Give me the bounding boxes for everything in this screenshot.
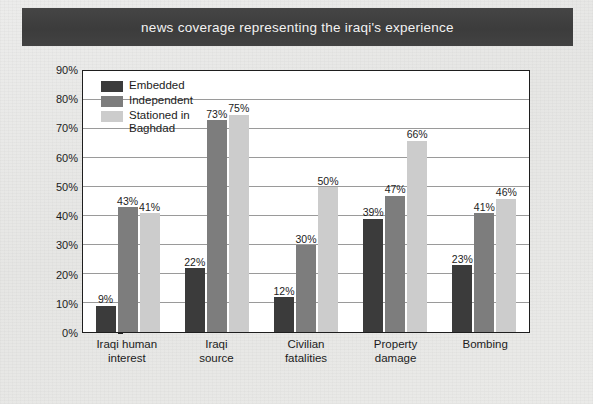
- y-axis-tick-label: 40%: [56, 211, 78, 222]
- legend-swatch: [101, 111, 123, 122]
- y-axis-tick-label: 70%: [56, 123, 78, 134]
- y-axis-tick-label: 80%: [56, 94, 78, 105]
- bar-group: 39%47%66%: [363, 71, 427, 332]
- x-axis-tick-label: Iraqisource: [172, 338, 262, 378]
- bar-value-label: 75%: [228, 103, 249, 114]
- y-axis-tick-mark: [118, 333, 123, 334]
- x-axis-tick-label: Civilianfatalities: [261, 338, 351, 378]
- bar-embedded[interactable]: 22%: [185, 268, 205, 332]
- bar-stationed-in-baghdad[interactable]: 46%: [496, 199, 516, 332]
- x-axis-tick-label: Propertydamage: [351, 338, 441, 378]
- legend-item[interactable]: Stationed in Baghdad: [101, 109, 193, 135]
- bar-independent[interactable]: 30%: [296, 245, 316, 332]
- y-axis: 0%10%20%30%40%50%60%70%80%90%: [40, 62, 78, 341]
- legend: EmbeddedIndependentStationed in Baghdad: [101, 79, 193, 135]
- chart-title-banner: news coverage representing the iraqi's e…: [22, 8, 573, 46]
- bar-value-label: 47%: [385, 184, 406, 195]
- bar-group: 12%30%50%: [274, 71, 338, 332]
- page-title: news coverage representing the iraqi's e…: [141, 20, 454, 35]
- bar-value-label: 9%: [98, 294, 113, 305]
- y-axis-tick-label: 60%: [56, 153, 78, 164]
- bar-stationed-in-baghdad[interactable]: 75%: [229, 115, 249, 333]
- bar-embedded[interactable]: 23%: [452, 265, 472, 332]
- bar-value-label: 30%: [295, 234, 316, 245]
- y-axis-tick-label: 50%: [56, 182, 78, 193]
- bar-stationed-in-baghdad[interactable]: 50%: [318, 187, 338, 332]
- bar-stationed-in-baghdad[interactable]: 66%: [407, 141, 427, 332]
- bar-value-label: 12%: [273, 286, 294, 297]
- legend-label: Embedded: [129, 79, 185, 92]
- bar-independent[interactable]: 43%: [118, 207, 138, 332]
- legend-item[interactable]: Independent: [101, 94, 193, 107]
- bar-embedded[interactable]: 12%: [274, 297, 294, 332]
- bar-independent[interactable]: 41%: [474, 213, 494, 332]
- x-axis: Iraqi humaninterestIraqisourceCivilianfa…: [82, 338, 530, 378]
- x-axis-tick-label: Bombing: [440, 338, 530, 378]
- x-axis-tick-label: Iraqi humaninterest: [82, 338, 172, 378]
- legend-item[interactable]: Embedded: [101, 79, 193, 92]
- bar-independent[interactable]: 47%: [385, 196, 405, 332]
- bar-value-label: 50%: [317, 176, 338, 187]
- y-axis-tick-label: 10%: [56, 299, 78, 310]
- bar-value-label: 23%: [452, 254, 473, 265]
- bar-group: 22%73%75%: [185, 71, 249, 332]
- bar-value-label: 43%: [117, 196, 138, 207]
- legend-label: Stationed in Baghdad: [129, 109, 190, 135]
- bar-group: 23%41%46%: [452, 71, 516, 332]
- plot-area: 9%43%41%22%73%75%12%30%50%39%47%66%23%41…: [82, 70, 530, 333]
- bar-value-label: 66%: [407, 129, 428, 140]
- bar-independent[interactable]: 73%: [207, 120, 227, 332]
- bar-value-label: 22%: [184, 257, 205, 268]
- bar-embedded[interactable]: 39%: [363, 219, 383, 332]
- y-axis-tick-label: 30%: [56, 240, 78, 251]
- legend-label: Independent: [129, 94, 193, 107]
- bar-embedded[interactable]: 9%: [96, 306, 116, 332]
- bar-value-label: 46%: [496, 187, 517, 198]
- bar-value-label: 73%: [206, 109, 227, 120]
- bar-value-label: 39%: [363, 207, 384, 218]
- bar-stationed-in-baghdad[interactable]: 41%: [140, 213, 160, 332]
- bar-value-label: 41%: [474, 202, 495, 213]
- y-axis-tick-label: 0%: [62, 328, 78, 339]
- legend-swatch: [101, 81, 123, 92]
- y-axis-tick-label: 90%: [56, 65, 78, 76]
- bar-value-label: 41%: [139, 202, 160, 213]
- legend-swatch: [101, 96, 123, 107]
- y-axis-tick-label: 20%: [56, 270, 78, 281]
